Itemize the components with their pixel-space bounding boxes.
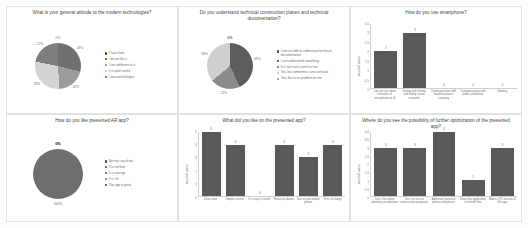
bar-slot: 3 xyxy=(488,132,517,196)
bar-slot: 2 xyxy=(371,24,400,88)
bar-slot: 4 xyxy=(321,132,345,196)
legend-item: I am not able to understand technical do… xyxy=(277,50,343,58)
x-axis-label: I do not use smart functions of smartpho… xyxy=(370,90,399,110)
y-axis-ticks: 00,511,522,533,5 xyxy=(361,24,370,90)
legend-swatch-icon xyxy=(105,184,107,186)
legend-item: I do not like it xyxy=(105,58,171,62)
y-axis-tick: 2,5 xyxy=(365,155,369,159)
legend-swatch-icon xyxy=(105,76,107,78)
bar[interactable] xyxy=(202,132,221,196)
bar[interactable] xyxy=(462,180,485,196)
x-axis-label: Communication with public authorities xyxy=(458,90,487,110)
bar[interactable] xyxy=(323,145,342,196)
legend-item-label: Yes, that is no problem for me xyxy=(281,77,322,81)
bar-value-label: 3 xyxy=(414,143,416,147)
legend-item: It is not bad xyxy=(105,166,171,170)
bar[interactable] xyxy=(403,148,426,196)
bar[interactable] xyxy=(433,132,456,196)
legend-item-label: I love technologies xyxy=(109,76,135,80)
legend-item-label: It is not bad xyxy=(109,166,125,170)
x-axis-label: Free of charge xyxy=(321,198,346,218)
y-axis-tick: 2,5 xyxy=(365,41,369,45)
legend-item-label: It is quiet useful xyxy=(109,70,131,74)
pie-slice-label: 20% xyxy=(73,85,80,89)
survey-charts-sheet: What is your general attitude to the mod… xyxy=(0,0,528,228)
y-axis-ticks: 00,511,522,533,54,0 xyxy=(361,132,370,198)
chart-title: Do you understand technical construction… xyxy=(183,10,345,22)
legend-item-label: It is not much useful for me xyxy=(281,66,318,70)
bar-slot: 0 xyxy=(248,132,272,196)
x-axis-label: Clear view xyxy=(198,198,223,218)
y-axis-tick: 2 xyxy=(367,50,369,54)
bar[interactable] xyxy=(403,33,426,87)
legend-swatch-icon xyxy=(277,78,279,80)
legend-item-label: I do not like it xyxy=(109,58,127,62)
chart-legend: Not my cup of teaIt is not badIt is aver… xyxy=(105,160,173,188)
pie-slice-label: 29% xyxy=(77,46,84,50)
y-axis-tick: 3 xyxy=(367,31,369,35)
legend-item-label: It is average xyxy=(109,172,126,176)
chart-title: What did you like on the presented app? xyxy=(183,118,345,130)
bar-slot: 0 xyxy=(488,24,517,88)
legend-item: I love technologies xyxy=(105,76,171,80)
bar[interactable] xyxy=(374,148,397,196)
bar[interactable] xyxy=(275,145,294,196)
y-axis-tick: 2 xyxy=(367,163,369,167)
bar[interactable] xyxy=(374,51,397,87)
chart-panel-optimization-bar: Where do you see the possibility of furt… xyxy=(350,114,522,222)
legend-swatch-icon xyxy=(277,50,279,52)
bar[interactable] xyxy=(491,148,514,196)
legend-item: It is average xyxy=(105,172,171,176)
y-axis-ticks: 012345 xyxy=(189,132,198,198)
chart-legend: I hate themI do not like itI am indiffer… xyxy=(105,52,173,80)
y-axis-tick: 3,5 xyxy=(365,22,369,26)
plot-area: 540434 xyxy=(198,132,345,197)
y-axis-tick: 4 xyxy=(195,143,197,147)
chart-title: What is your general attitude to the mod… xyxy=(11,10,173,22)
legend-swatch-icon xyxy=(105,172,107,174)
legend-swatch-icon xyxy=(277,72,279,74)
bar[interactable] xyxy=(226,145,245,196)
bar-value-label: 3 xyxy=(414,28,416,32)
legend-item-label: I can understand something xyxy=(281,60,319,64)
chart-panel-liked-bar: What did you like on the presented app? … xyxy=(178,114,350,222)
y-axis-tick: 0,5 xyxy=(365,79,369,83)
legend-swatch-icon xyxy=(105,58,107,60)
bar-value-label: 0 xyxy=(472,83,474,87)
legend-swatch-icon xyxy=(105,160,107,162)
legend-swatch-icon xyxy=(277,66,279,68)
chart-legend: I am not able to understand technical do… xyxy=(277,50,345,82)
legend-item: Yes, but sometimes I am confused xyxy=(277,71,343,75)
pie-slice-label: 22% xyxy=(37,42,44,46)
bar-value-label: 1 xyxy=(472,175,474,179)
bar-value-label: 3 xyxy=(385,143,387,147)
bar-value-label: 5 xyxy=(210,127,212,131)
pie-area: 0%43%21%36%0% xyxy=(183,22,277,109)
y-axis-tick: 3,5 xyxy=(365,138,369,142)
legend-item-label: Not my cup of tea xyxy=(109,160,133,164)
chart-panel-attitude-pie: What is your general attitude to the mod… xyxy=(6,6,178,114)
y-axis-tick: 2 xyxy=(195,170,197,174)
pie-slice-label: 0% xyxy=(228,36,233,40)
legend-item: The app is great xyxy=(105,184,171,188)
legend-item-label: Yes, but sometimes I am confused xyxy=(281,71,328,75)
bar-body: count of users 00,511,522,533,54,0 33413… xyxy=(355,130,517,218)
chart-panel-ar-app-pie: How do you like presented AR app? 0%0%0%… xyxy=(6,114,178,222)
bar-body: count of users 00,511,522,533,5 23000 I … xyxy=(355,22,517,110)
y-axis-tick: 1,5 xyxy=(365,171,369,175)
pie-slice-label: 36% xyxy=(201,52,208,56)
bar[interactable] xyxy=(299,157,318,195)
pie-row: 0%43%21%36%0% I am not able to understan… xyxy=(183,22,345,109)
legend-item: It is not much useful for me xyxy=(277,66,343,70)
chart-title: How do you use smartphone? xyxy=(355,10,517,22)
y-axis-tick: 1 xyxy=(367,180,369,184)
y-axis-tick: 0,5 xyxy=(365,188,369,192)
x-axis-label: Share the application to friends free xyxy=(458,198,487,218)
x-axis-labels: Use it for urban planning visualizationU… xyxy=(370,198,517,218)
pie-area: 0%29%20%29%22% xyxy=(11,22,105,109)
chart-panel-smartphone-bar: How do you use smartphone? count of user… xyxy=(350,6,522,114)
legend-item-label: I am not able to understand technical do… xyxy=(281,50,335,58)
x-axis-label: Use at own mobile phone xyxy=(296,198,321,218)
bar-slot: 4 xyxy=(429,132,458,196)
legend-swatch-icon xyxy=(277,60,279,62)
